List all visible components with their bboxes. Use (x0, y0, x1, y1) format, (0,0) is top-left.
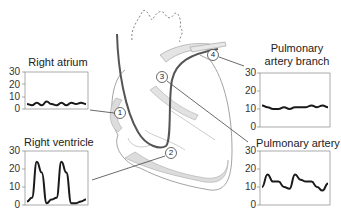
chart-pulmonary-artery (0, 0, 341, 224)
